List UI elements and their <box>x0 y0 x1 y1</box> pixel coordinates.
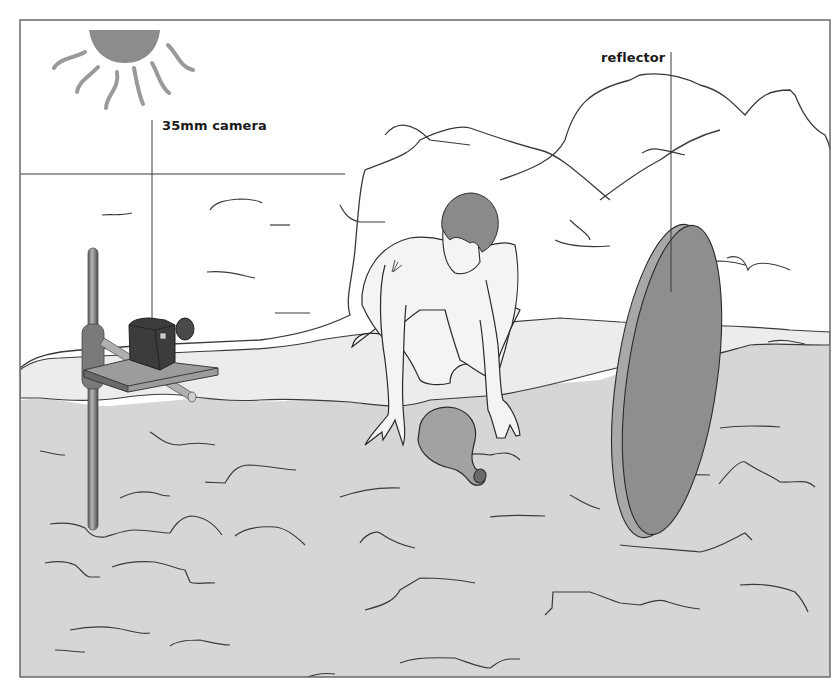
illustration-canvas <box>0 0 837 687</box>
reflector-label: reflector <box>601 50 665 65</box>
camera-label: 35mm camera <box>162 118 267 133</box>
